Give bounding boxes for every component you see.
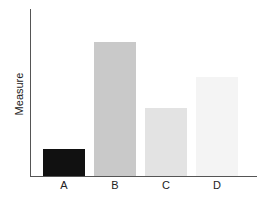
bar-c: [145, 108, 187, 176]
bar-d: [196, 77, 238, 176]
bar-chart: Measure ABCD: [0, 0, 270, 205]
x-tick-label-b: B: [94, 179, 136, 191]
bar-b: [94, 42, 136, 176]
x-tick-label-a: A: [43, 179, 85, 191]
x-tick-label-d: D: [196, 179, 238, 191]
y-axis-label: Measure: [13, 73, 25, 116]
x-tick-label-c: C: [145, 179, 187, 191]
y-axis-line: [30, 9, 31, 176]
bar-a: [43, 149, 85, 176]
x-axis-line: [30, 176, 257, 177]
